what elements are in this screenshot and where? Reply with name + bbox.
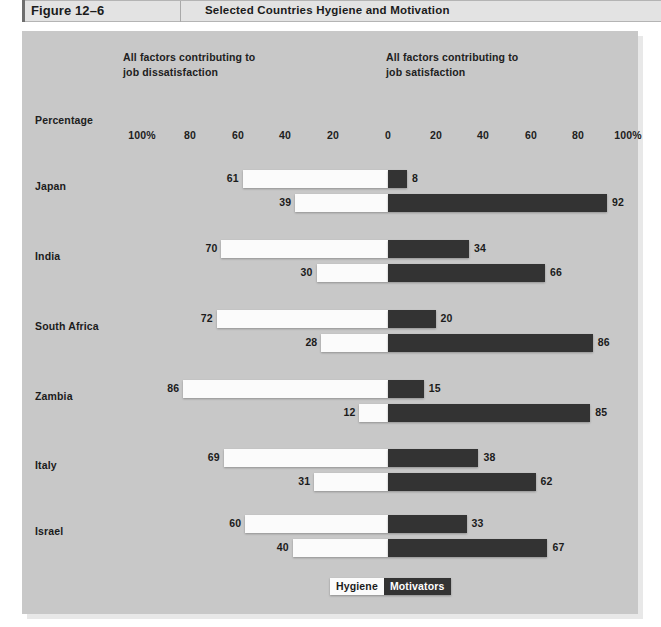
axis-tick: 80 xyxy=(184,129,196,141)
bar-value-left: 12 xyxy=(343,406,355,418)
bar-value-left: 31 xyxy=(298,475,310,487)
bar-segment-motivators[interactable] xyxy=(388,240,469,258)
bar-value-left: 30 xyxy=(301,266,313,278)
bar-value-right: 15 xyxy=(429,382,441,394)
caption-satisfaction-line1: All factors contributing to xyxy=(386,50,518,65)
axis-tick: 60 xyxy=(525,129,537,141)
bar-segment-hygiene[interactable] xyxy=(245,515,388,533)
bar-row: 2886 xyxy=(0,334,661,352)
axis-tick-row: 100%80604020020406080100% xyxy=(0,129,661,143)
bar-value-right: 86 xyxy=(598,336,610,348)
bar-value-right: 34 xyxy=(474,242,486,254)
bar-value-left: 72 xyxy=(201,312,213,324)
bar-value-right: 85 xyxy=(595,406,607,418)
bar-value-left: 86 xyxy=(167,382,179,394)
caption-satisfaction-line2: job satisfaction xyxy=(386,65,518,80)
axis-title-percentage: Percentage xyxy=(35,114,93,126)
bar-value-left: 40 xyxy=(277,541,289,553)
axis-tick: 20 xyxy=(327,129,339,141)
bar-row: 4067 xyxy=(0,539,661,557)
bar-segment-hygiene[interactable] xyxy=(359,404,388,422)
axis-tick: 60 xyxy=(232,129,244,141)
panel-shadow-bottom xyxy=(27,614,643,619)
figure-title: Selected Countries Hygiene and Motivatio… xyxy=(205,4,450,16)
axis-tick: 80 xyxy=(572,129,584,141)
bar-segment-hygiene[interactable] xyxy=(217,310,388,328)
axis-tick: 40 xyxy=(279,129,291,141)
bar-value-right: 33 xyxy=(472,517,484,529)
bar-segment-hygiene[interactable] xyxy=(314,473,388,491)
legend-item-motivators[interactable]: Motivators xyxy=(384,578,451,595)
bar-segment-hygiene[interactable] xyxy=(295,194,388,212)
bar-value-left: 61 xyxy=(227,172,239,184)
bar-row: 3066 xyxy=(0,264,661,282)
axis-tick: 40 xyxy=(477,129,489,141)
axis-tick: 20 xyxy=(430,129,442,141)
bar-row: 3162 xyxy=(0,473,661,491)
figure-header-accent xyxy=(22,0,25,22)
bar-segment-motivators[interactable] xyxy=(388,170,407,188)
bar-value-right: 92 xyxy=(612,196,624,208)
bar-row: 618 xyxy=(0,170,661,188)
bar-value-right: 20 xyxy=(441,312,453,324)
bar-value-right: 38 xyxy=(483,451,495,463)
caption-dissatisfaction-line2: job dissatisfaction xyxy=(123,65,255,80)
bar-segment-motivators[interactable] xyxy=(388,473,536,491)
bar-segment-motivators[interactable] xyxy=(388,449,478,467)
axis-tick: 100% xyxy=(128,129,155,141)
bar-segment-hygiene[interactable] xyxy=(321,334,388,352)
axis-tick: 100% xyxy=(614,129,641,141)
bar-segment-hygiene[interactable] xyxy=(293,539,388,557)
bar-value-right: 62 xyxy=(541,475,553,487)
bar-value-right: 67 xyxy=(552,541,564,553)
bar-segment-motivators[interactable] xyxy=(388,194,607,212)
bar-segment-hygiene[interactable] xyxy=(243,170,388,188)
bar-segment-hygiene[interactable] xyxy=(221,240,388,258)
figure-header-divider xyxy=(180,1,181,22)
bar-segment-motivators[interactable] xyxy=(388,380,424,398)
caption-dissatisfaction-line1: All factors contributing to xyxy=(123,50,255,65)
bar-row: 1285 xyxy=(0,404,661,422)
bar-segment-motivators[interactable] xyxy=(388,515,467,533)
axis-tick: 0 xyxy=(385,129,391,141)
bar-row: 6938 xyxy=(0,449,661,467)
bar-row: 6033 xyxy=(0,515,661,533)
bar-value-left: 70 xyxy=(205,242,217,254)
chart-legend: Hygiene Motivators xyxy=(330,578,451,595)
bar-segment-motivators[interactable] xyxy=(388,310,436,328)
bar-segment-motivators[interactable] xyxy=(388,334,593,352)
bar-segment-hygiene[interactable] xyxy=(317,264,388,282)
bar-segment-motivators[interactable] xyxy=(388,264,545,282)
bar-row: 8615 xyxy=(0,380,661,398)
bar-value-left: 60 xyxy=(229,517,241,529)
bar-row: 3992 xyxy=(0,194,661,212)
bar-value-right: 66 xyxy=(550,266,562,278)
caption-dissatisfaction: All factors contributing to job dissatis… xyxy=(123,50,255,80)
figure-number: Figure 12–6 xyxy=(31,3,104,18)
bar-value-left: 39 xyxy=(279,196,291,208)
bar-segment-motivators[interactable] xyxy=(388,404,590,422)
bar-row: 7034 xyxy=(0,240,661,258)
bar-segment-motivators[interactable] xyxy=(388,539,547,557)
figure-container: Figure 12–6 Selected Countries Hygiene a… xyxy=(0,0,661,627)
bar-value-right: 8 xyxy=(412,172,418,184)
bar-segment-hygiene[interactable] xyxy=(183,380,388,398)
bar-segment-hygiene[interactable] xyxy=(224,449,388,467)
legend-item-hygiene[interactable]: Hygiene xyxy=(330,578,384,595)
bar-value-left: 28 xyxy=(305,336,317,348)
bar-row: 7220 xyxy=(0,310,661,328)
caption-satisfaction: All factors contributing to job satisfac… xyxy=(386,50,518,80)
bar-value-left: 69 xyxy=(208,451,220,463)
